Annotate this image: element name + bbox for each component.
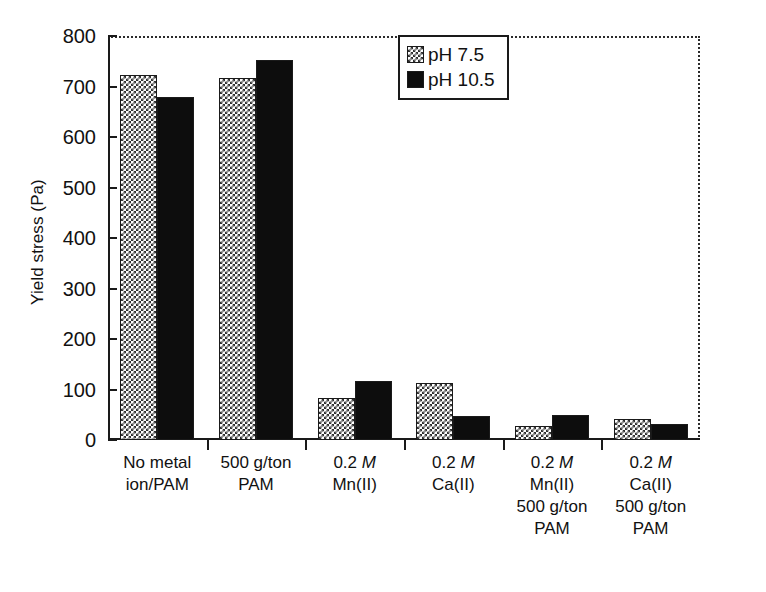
bar-ph105	[256, 60, 293, 440]
legend-entry-ph75: pH 7.5	[407, 42, 495, 67]
y-tick-mark	[108, 237, 117, 239]
bar-ph105	[552, 415, 589, 440]
x-category-label-line: 500 g/ton	[589, 496, 712, 518]
chart-legend: pH 7.5 pH 10.5	[398, 35, 509, 100]
x-category-label-line: 0.2 M	[589, 452, 712, 474]
y-tick-label: 400	[63, 227, 96, 250]
y-tick-mark	[108, 187, 117, 189]
y-tick-label: 800	[63, 25, 96, 48]
bar-ph105	[651, 424, 688, 440]
x-axis-category-labels: No metalion/PAM500 g/tonPAM0.2 MMn(II)0.…	[108, 452, 700, 582]
bar-ph75	[219, 78, 256, 440]
x-tick-mark	[601, 440, 603, 450]
plot-frame-right-border	[698, 36, 700, 440]
y-tick-label: 300	[63, 277, 96, 300]
y-tick-mark	[108, 86, 117, 88]
bar-ph75	[515, 426, 552, 440]
y-tick-label: 500	[63, 176, 96, 199]
x-category-label: 0.2 MCa(II)500 g/tonPAM	[589, 452, 712, 540]
bar-ph105	[453, 416, 490, 440]
bar-ph75	[318, 398, 355, 440]
bar-ph75	[416, 383, 453, 440]
x-tick-mark	[503, 440, 505, 450]
x-tick-mark	[404, 440, 406, 450]
bar-ph75	[120, 75, 157, 440]
y-tick-mark	[108, 288, 117, 290]
bar-chart-figure: Yield stress (Pa) 0100200300400500600700…	[0, 0, 766, 592]
y-tick-mark	[108, 439, 117, 441]
x-tick-mark	[305, 440, 307, 450]
y-tick-label: 200	[63, 328, 96, 351]
y-tick-label: 700	[63, 75, 96, 98]
y-tick-mark	[108, 338, 117, 340]
x-category-label-line: Ca(II)	[589, 474, 712, 496]
checker-swatch-icon	[407, 46, 424, 63]
bar-ph105	[355, 381, 392, 440]
legend-label-ph75: pH 7.5	[428, 45, 484, 64]
y-tick-mark	[108, 35, 117, 37]
y-tick-mark	[108, 389, 117, 391]
bar-ph75	[614, 419, 651, 440]
legend-label-ph105: pH 10.5	[428, 70, 495, 89]
y-axis-title: Yield stress (Pa)	[28, 142, 48, 342]
y-tick-label: 0	[85, 429, 96, 452]
y-tick-label: 100	[63, 378, 96, 401]
x-tick-mark	[207, 440, 209, 450]
legend-entry-ph105: pH 10.5	[407, 67, 495, 92]
bar-ph105	[157, 97, 194, 440]
solid-swatch-icon	[407, 71, 424, 88]
x-category-label-line: PAM	[589, 518, 712, 540]
y-tick-label: 600	[63, 126, 96, 149]
y-tick-mark	[108, 136, 117, 138]
